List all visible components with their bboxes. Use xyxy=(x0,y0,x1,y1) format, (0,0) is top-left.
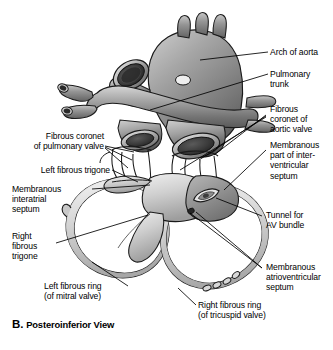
caption-letter: B. xyxy=(12,318,24,330)
label-tunnel-for-av-bundle: Tunnel for AV bundle xyxy=(266,210,304,230)
label-membranous-atrioventricular-septum: Membranous atrioventricular septum xyxy=(266,262,321,293)
leader-membranous-interventricular xyxy=(224,150,266,190)
caption-text: Posteroinferior View xyxy=(26,319,114,330)
label-right-fibrous-ring-of-tricuspid-valve: Right fibrous ring (of tricuspid valve) xyxy=(198,300,266,320)
label-arch-of-aorta: Arch of aorta xyxy=(270,47,318,57)
label-left-fibrous-trigone: Left fibrous trigone xyxy=(4,165,110,175)
figure-caption: B. Posteroinferior View xyxy=(12,318,114,330)
label-left-fibrous-ring-of-mitral-valve: Left fibrous ring (of mitral valve) xyxy=(44,281,102,301)
left-subclavian-stub xyxy=(213,15,226,38)
membranous-interventricular-septum-shape xyxy=(186,175,239,221)
leader-membranous-av-septum-2 xyxy=(190,213,262,268)
label-pulmonary-trunk: Pulmonary trunk xyxy=(270,69,310,89)
label-fibrous-coronet-of-aortic-valve: Fibrous coronet of aortic valve xyxy=(270,104,312,135)
leader-membranous-av-septum-1 xyxy=(196,212,262,268)
leader-right-fibrous-ring xyxy=(178,288,196,305)
label-right-fibrous-trigone: Right fibrous trigone xyxy=(12,231,38,262)
label-fibrous-coronet-of-pulmonary-valve: Fibrous coronet of pulmonary valve xyxy=(4,131,104,151)
label-membranous-interatrial-septum: Membranous interatrial septum xyxy=(12,184,61,215)
brachiocephalic-trunk-stub xyxy=(178,16,191,38)
aortic-valve-opening xyxy=(166,120,225,163)
label-membranous-part-of-interventricular-septum: Membranous part of inter- ventricular se… xyxy=(270,140,319,181)
aortic-arch-window xyxy=(176,75,191,85)
left-common-carotid-stub xyxy=(196,13,209,35)
anatomical-figure: Arch of aorta Pulmonary trunk Fibrous co… xyxy=(0,0,333,350)
